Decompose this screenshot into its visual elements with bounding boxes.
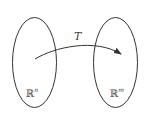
- domain-set-ellipse: [13, 18, 57, 108]
- domain-set-label: ℝn: [26, 86, 38, 99]
- mapping-arrow: [35, 45, 121, 59]
- linear-transformation-diagram: T ℝn ℝm: [0, 0, 148, 121]
- codomain-set-label: ℝm: [110, 86, 124, 99]
- map-label: T: [74, 30, 83, 43]
